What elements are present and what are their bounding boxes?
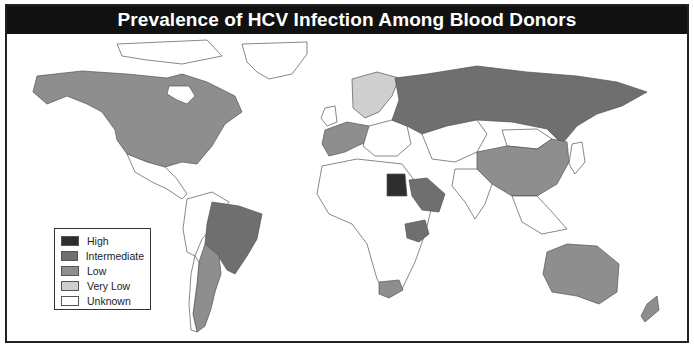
- legend-item-high: High: [61, 233, 144, 248]
- legend-label: Unknown: [87, 295, 131, 307]
- region-south-africa: [379, 280, 403, 298]
- region-ethiopia: [405, 220, 429, 242]
- region-scandinavia: [352, 72, 399, 118]
- region-western-europe: [322, 122, 371, 156]
- legend-swatch-very-low: [61, 281, 79, 291]
- legend-item-very-low: Very Low: [61, 278, 144, 293]
- map-title: Prevalence of HCV Infection Among Blood …: [7, 6, 687, 34]
- region-australia: [543, 244, 619, 304]
- legend-swatch-unknown: [61, 296, 79, 306]
- legend-item-low: Low: [61, 263, 144, 278]
- legend-label: High: [87, 235, 109, 247]
- region-north-america: [33, 71, 242, 167]
- region-greenland: [242, 42, 307, 79]
- legend-label: Intermediate: [86, 250, 144, 262]
- legend-swatch-low: [61, 266, 79, 276]
- region-argentina: [193, 244, 221, 332]
- map-figure: Prevalence of HCV Infection Among Blood …: [5, 4, 689, 343]
- region-uk: [321, 106, 337, 126]
- region-japan: [569, 142, 585, 174]
- legend-label: Very Low: [87, 280, 130, 292]
- region-southeast-asia: [512, 196, 567, 234]
- legend-label: Low: [87, 265, 106, 277]
- region-new-zealand: [641, 296, 659, 322]
- map-legend: High Intermediate Low Very Low Unknown: [54, 228, 151, 310]
- region-arctic-islands: [117, 40, 222, 64]
- legend-swatch-high: [61, 236, 79, 246]
- legend-item-unknown: Unknown: [61, 293, 144, 308]
- region-egypt: [387, 174, 407, 196]
- legend-swatch-intermediate: [61, 251, 78, 261]
- legend-item-intermediate: Intermediate: [61, 248, 144, 263]
- region-eastern-europe: [363, 120, 411, 156]
